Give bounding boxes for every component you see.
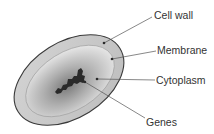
label-membrane: Membrane [157,45,207,56]
label-cytoplasm: Cytoplasm [156,75,206,86]
bacterial-cell-diagram: Cell wall Membrane Cytoplasm Genes [0,0,214,134]
label-genes: Genes [146,117,177,128]
label-cell-wall: Cell wall [154,10,193,21]
